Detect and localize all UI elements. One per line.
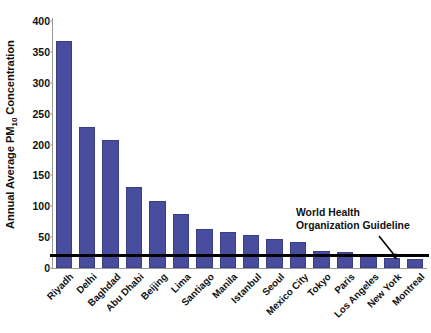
bar [313,251,329,268]
y-axis-tick-labels: 050100150200250300350400 [18,0,50,333]
y-axis-tick-label: 100 [18,200,50,212]
y-axis-tick-label: 400 [18,15,50,27]
y-axis-tick-label: 0 [18,262,50,274]
y-axis-tick-mark [48,82,52,83]
y-axis-tick-label: 250 [18,108,50,120]
bar [173,214,189,268]
annotation-arrow-icon [376,234,404,264]
y-axis-tick-mark [48,206,52,207]
y-axis-title-text: Annual Average PM10 Concentration [3,41,18,230]
y-axis-tick-mark [48,237,52,238]
who-guideline-annotation-line1: World Health [296,206,430,219]
who-guideline-line [50,254,429,257]
y-axis-tick-label: 300 [18,77,50,89]
bar [102,140,118,268]
pm10-bar-chart-figure: Annual Average PM10 Concentration 050100… [0,0,431,333]
bar [407,259,423,268]
bar [56,41,72,268]
who-guideline-annotation-line2: Organization Guideline [296,219,430,232]
y-axis-tick-mark [48,21,52,22]
y-axis-tick-label: 350 [18,46,50,58]
who-guideline-annotation: World Health Organization Guideline [296,206,430,233]
y-axis-tick-mark [48,175,52,176]
y-axis-tick-mark [48,113,52,114]
bar [243,235,259,268]
bar [196,229,212,268]
x-axis-tick-labels: RiyadhDelhiBaghdadAbu DhabiBeijingLimaSa… [52,269,427,333]
bar [220,232,236,268]
y-axis-tick-mark [48,144,52,145]
y-axis-tick-mark [48,51,52,52]
bar [79,127,95,268]
y-axis-title-prefix: Annual Average PM [3,127,15,230]
y-axis-title-suffix: Concentration [3,41,15,119]
y-axis-tick-label: 200 [18,139,50,151]
y-axis-tick-label: 50 [18,231,50,243]
y-axis-tick-label: 150 [18,169,50,181]
x-axis-tick-label: Tokyo [306,271,334,299]
bar [149,201,165,268]
